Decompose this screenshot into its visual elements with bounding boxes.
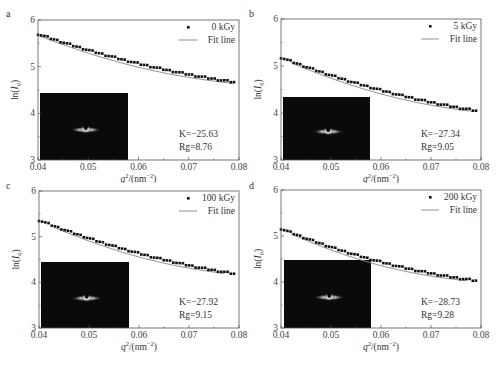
y-tick-labels: 3456 <box>273 14 278 165</box>
svg-text:0.06: 0.06 <box>373 330 390 340</box>
saxs-inset-image <box>283 97 370 160</box>
legend: 100 kGyFit line <box>179 193 235 216</box>
svg-text:0.04: 0.04 <box>273 162 290 172</box>
svg-text:4: 4 <box>273 277 278 287</box>
svg-text:4: 4 <box>30 108 35 118</box>
svg-text:0.07: 0.07 <box>180 162 197 172</box>
x-axis-label: q2/(nm−2) <box>363 340 399 353</box>
svg-text:0.07: 0.07 <box>423 330 440 340</box>
saxs-inset-image <box>41 262 129 328</box>
x-tick-labels: 0.040.050.060.070.08 <box>31 330 248 340</box>
svg-text:0 kGy: 0 kGy <box>212 22 236 32</box>
x-tick-labels: 0.040.050.060.070.08 <box>273 330 490 340</box>
panel-label: a <box>6 8 11 19</box>
k-annotation: K=−25.63 <box>179 129 218 139</box>
y-tick-labels: 3456 <box>31 186 36 333</box>
k-annotation: K=−28.73 <box>421 297 460 307</box>
svg-text:5: 5 <box>30 62 35 72</box>
rg-annotation: Rg=9.05 <box>421 142 454 152</box>
svg-text:0.07: 0.07 <box>423 162 440 172</box>
chart-svg: d 3456 0.040.050.060.070.08 200 kGyFit l… <box>243 172 493 355</box>
chart-svg: c 3456 0.040.050.060.070.08 100 kGyFit l… <box>0 172 250 355</box>
svg-text:0.05: 0.05 <box>323 330 340 340</box>
panel-label: c <box>6 180 11 191</box>
svg-text:4: 4 <box>31 277 36 287</box>
k-annotation: K=−27.34 <box>421 129 460 139</box>
svg-text:100 kGy: 100 kGy <box>202 193 235 203</box>
k-annotation: K=−27.92 <box>179 297 218 307</box>
svg-text:0.04: 0.04 <box>273 330 290 340</box>
svg-text:6: 6 <box>31 186 36 196</box>
svg-text:Fit line: Fit line <box>450 34 477 44</box>
svg-text:0.06: 0.06 <box>373 162 390 172</box>
svg-text:0.04: 0.04 <box>30 162 47 172</box>
panel-label: b <box>249 8 254 19</box>
y-tick-labels: 3456 <box>30 15 35 165</box>
rg-annotation: Rg=9.15 <box>179 310 212 320</box>
svg-text:6: 6 <box>30 15 35 25</box>
svg-text:ln(Iq): ln(Iq) <box>253 79 264 99</box>
svg-text:0.08: 0.08 <box>473 330 490 340</box>
svg-text:Fit line: Fit line <box>208 206 235 216</box>
legend: 5 kGyFit line <box>421 21 477 44</box>
svg-text:5: 5 <box>31 232 36 242</box>
saxs-inset-image <box>284 260 371 328</box>
y-axis-label: ln(Iq) <box>253 79 264 99</box>
legend: 200 kGyFit line <box>421 192 477 215</box>
svg-text:ln(Iq): ln(Iq) <box>10 80 21 100</box>
data-points <box>37 34 236 84</box>
rg-annotation: Rg=8.76 <box>179 142 212 152</box>
svg-text:0.05: 0.05 <box>323 162 340 172</box>
svg-text:0.06: 0.06 <box>130 162 147 172</box>
saxs-inset-image <box>40 93 128 160</box>
rg-annotation: Rg=9.28 <box>421 310 454 320</box>
svg-text:5: 5 <box>273 231 278 241</box>
panel-label: d <box>249 180 254 191</box>
svg-text:6: 6 <box>273 14 278 24</box>
svg-text:200 kGy: 200 kGy <box>444 192 477 202</box>
chart-panel-a: a 3456 0.040.050.060.070.08 0 kGyFit lin… <box>0 0 250 187</box>
svg-text:Fit line: Fit line <box>208 35 235 45</box>
chart-svg: b 3456 0.040.050.060.070.08 5 kGyFit lin… <box>243 0 493 183</box>
y-tick-labels: 3456 <box>273 185 278 333</box>
svg-text:q2/(nm−2): q2/(nm−2) <box>363 340 399 353</box>
svg-text:0.06: 0.06 <box>131 330 148 340</box>
svg-text:0.05: 0.05 <box>80 162 97 172</box>
svg-text:q2/(nm−2): q2/(nm−2) <box>121 340 157 353</box>
svg-text:ln(Iq): ln(Iq) <box>11 249 22 269</box>
x-tick-labels: 0.040.050.060.070.08 <box>273 162 490 172</box>
svg-text:0.07: 0.07 <box>181 330 198 340</box>
chart-panel-b: b 3456 0.040.050.060.070.08 5 kGyFit lin… <box>243 0 493 187</box>
svg-text:ln(Iq): ln(Iq) <box>253 249 264 269</box>
chart-panel-d: d 3456 0.040.050.060.070.08 200 kGyFit l… <box>243 172 493 359</box>
svg-text:0.04: 0.04 <box>31 330 48 340</box>
x-tick-labels: 0.040.050.060.070.08 <box>30 162 248 172</box>
y-axis-label: ln(Iq) <box>11 249 22 269</box>
svg-text:5: 5 <box>273 61 278 71</box>
svg-text:6: 6 <box>273 185 278 195</box>
svg-text:4: 4 <box>273 108 278 118</box>
svg-text:0.05: 0.05 <box>81 330 98 340</box>
y-axis-label: ln(Iq) <box>10 80 21 100</box>
svg-text:5 kGy: 5 kGy <box>454 21 478 31</box>
legend: 0 kGyFit line <box>179 22 235 45</box>
chart-panel-c: c 3456 0.040.050.060.070.08 100 kGyFit l… <box>0 172 250 359</box>
x-axis-label: q2/(nm−2) <box>121 340 157 353</box>
svg-text:Fit line: Fit line <box>450 205 477 215</box>
svg-text:0.08: 0.08 <box>473 162 490 172</box>
chart-svg: a 3456 0.040.050.060.070.08 0 kGyFit lin… <box>0 0 250 183</box>
y-axis-label: ln(Iq) <box>253 249 264 269</box>
